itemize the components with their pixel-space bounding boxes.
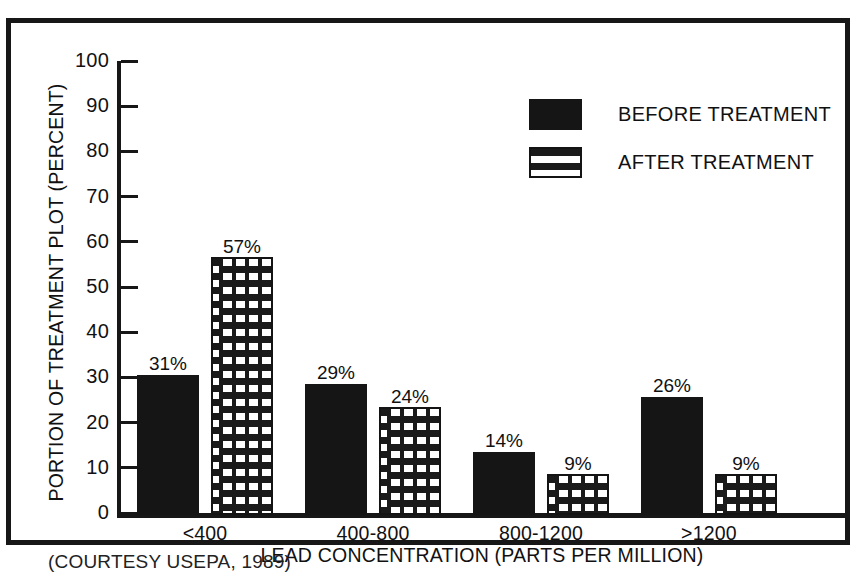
x-axis-category-label: >1200 [619,523,799,544]
y-axis-tick-label: 30 [63,366,109,386]
y-axis-tick-label: 10 [63,457,109,477]
bar-value-label: 24% [391,386,429,407]
y-axis-tick-label: 0 [63,502,109,522]
bar-after: 9% [547,474,609,515]
bar-before: 29% [305,384,367,515]
y-axis-tick-label: 40 [63,321,109,341]
bar-value-label: 57% [223,236,261,257]
legend-entry-after: AFTER TREATMENT [529,144,829,180]
bar-after: 24% [379,407,441,515]
bar-value-label: 14% [485,430,523,451]
x-axis-category-label: 800-1200 [451,523,631,544]
y-axis-tick-label: 70 [63,186,109,206]
bar-value-label: 31% [149,353,187,374]
bar-value-label: 29% [317,362,355,383]
legend-swatch-after-icon [529,147,582,178]
y-axis-tick-label: 50 [63,276,109,296]
y-axis-tick-label: 100 [63,50,109,70]
bar-before: 26% [641,397,703,515]
x-axis-category-label: <400 [115,523,295,544]
y-axis-tick-label: 60 [63,231,109,251]
bar-value-label: 9% [564,453,591,474]
legend-entry-before: BEFORE TREATMENT [529,96,829,132]
bar-value-label: 26% [653,375,691,396]
y-axis-tick-label: 90 [63,95,109,115]
bar-after: 57% [211,257,273,515]
figure-frame: PORTION OF TREATMENT PLOT (PERCENT) 0102… [6,18,850,545]
y-axis-tick-labels: 0102030405060708090100 [53,23,109,576]
y-axis-tick-label: 20 [63,412,109,432]
bar-before: 31% [137,375,199,515]
chart-legend: BEFORE TREATMENT AFTER TREATMENT [529,96,829,192]
bar-after: 9% [715,474,777,515]
bar-before: 14% [473,452,535,515]
legend-swatch-before-icon [529,99,582,130]
figure-caption: (COURTESY USEPA, 1989) [48,551,291,572]
legend-label-before: BEFORE TREATMENT [618,103,831,125]
x-axis-category-label: 400-800 [283,523,463,544]
legend-label-after: AFTER TREATMENT [618,151,814,173]
y-axis-tick-label: 80 [63,140,109,160]
bar-value-label: 9% [732,453,759,474]
